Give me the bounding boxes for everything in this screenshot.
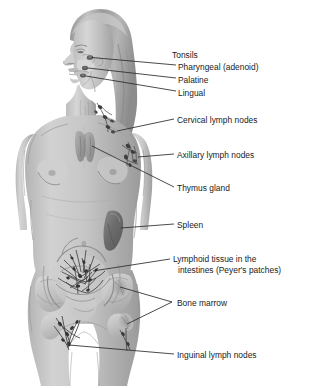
label-inguinal-lymph-nodes: Inguinal lymph nodes [177,350,257,361]
label-axillary-lymph-nodes: Axillary lymph nodes [177,150,254,161]
label-thymus-gland: Thymus gland [177,183,230,194]
anatomical-figure [0,0,315,388]
label-cervical-lymph-nodes: Cervical lymph nodes [177,115,257,126]
label-palatine: Palatine [178,75,208,86]
label-tonsils: Tonsils [172,50,198,61]
label-bone-marrow: Bone marrow [177,298,227,309]
lingual-tonsil [80,73,86,77]
palatine-tonsil [82,66,88,70]
label-lymphoid-tissue-intestines: Lymphoid tissue in theintestines (Peyer'… [173,254,301,275]
lymphatic-system-diagram: Tonsils Pharyngeal (adenoid) Palatine Li… [0,0,315,388]
label-pharyngeal-adenoid: Pharyngeal (adenoid) [178,62,258,73]
label-spleen: Spleen [177,220,203,231]
label-lingual: Lingual [178,88,205,99]
label-line-2: intestines (Peyer's patches) [178,265,301,276]
label-line-1: Lymphoid tissue in the [173,254,256,264]
